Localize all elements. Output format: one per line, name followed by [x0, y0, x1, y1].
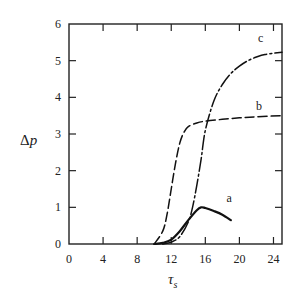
plot-frame [69, 24, 282, 244]
x-tick-label: 12 [165, 252, 177, 266]
y-tick-label: 2 [55, 164, 61, 178]
y-tick-label: 6 [55, 17, 61, 31]
x-axis-label: τs [168, 271, 177, 290]
y-tick-labels: 0123456 [55, 17, 61, 251]
axis-ticks [69, 24, 282, 244]
y-tick-label: 3 [55, 127, 61, 141]
y-tick-label: 0 [55, 237, 61, 251]
x-tick-label: 4 [100, 252, 106, 266]
y-axis-label: Δp [20, 132, 38, 148]
chart: 04812162024 0123456 abc Δp τs [0, 0, 294, 298]
curve-b [154, 116, 282, 244]
curve-a [154, 207, 231, 244]
x-tick-label: 20 [233, 252, 245, 266]
y-axis-label-var: p [29, 132, 38, 148]
curve-label-a: a [227, 191, 233, 205]
x-tick-label: 8 [134, 252, 140, 266]
x-tick-label: 0 [66, 252, 72, 266]
x-tick-label: 24 [267, 252, 279, 266]
x-tick-label: 16 [199, 252, 211, 266]
x-tick-labels: 04812162024 [66, 252, 279, 266]
y-tick-label: 1 [55, 200, 61, 214]
y-axis-label-delta: Δ [20, 132, 30, 148]
y-tick-label: 4 [55, 90, 61, 104]
data-curves [154, 52, 282, 244]
axes-box [69, 24, 282, 244]
x-axis-label-sub: s [173, 279, 177, 290]
y-tick-label: 5 [55, 54, 61, 68]
curve-label-b: b [256, 99, 262, 113]
curve-label-c: c [258, 31, 263, 45]
